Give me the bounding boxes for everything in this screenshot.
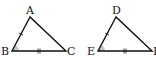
- vertex-label-e: E: [87, 45, 95, 58]
- triangle-def: D E F: [87, 4, 156, 58]
- vertex-label-d: D: [112, 4, 121, 17]
- vertex-label-f: F: [153, 45, 156, 58]
- triangle-abc: A B C: [1, 4, 75, 58]
- triangle-abc-outline: [12, 17, 66, 51]
- triangle-def-outline: [98, 17, 152, 51]
- vertex-label-c: C: [67, 45, 75, 58]
- congruent-triangles-diagram: A B C D E F: [0, 0, 156, 65]
- vertex-label-a: A: [25, 4, 35, 17]
- vertex-label-b: B: [1, 45, 9, 58]
